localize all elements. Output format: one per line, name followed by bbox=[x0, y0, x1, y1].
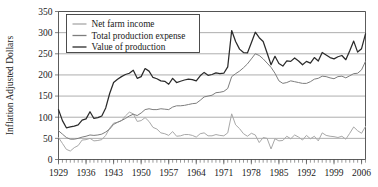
line-chart: 0501001502002503003501929193619431950195… bbox=[0, 0, 378, 187]
x-tick-label: 1964 bbox=[187, 168, 206, 178]
y-tick-label: 350 bbox=[38, 7, 53, 17]
y-tick-label: 250 bbox=[38, 49, 53, 59]
y-tick-label: 100 bbox=[38, 113, 53, 123]
x-tick-label: 1950 bbox=[132, 168, 151, 178]
legend-label-net-farm-income: Net farm income bbox=[92, 19, 155, 29]
legend-label-value-of-production: Value of production bbox=[92, 42, 166, 52]
legend-label-total-production-expense: Total production expense bbox=[92, 31, 186, 41]
y-tick-label: 300 bbox=[38, 28, 53, 38]
y-tick-label: 150 bbox=[38, 91, 53, 101]
x-tick-label: 1999 bbox=[325, 168, 344, 178]
chart-figure: 0501001502002503003501929193619431950195… bbox=[0, 0, 378, 187]
x-tick-label: 1971 bbox=[214, 168, 233, 178]
y-tick-label: 200 bbox=[38, 70, 53, 80]
x-tick-label: 1957 bbox=[159, 168, 178, 178]
y-tick-label: 50 bbox=[43, 134, 53, 144]
x-tick-label: 1978 bbox=[242, 168, 261, 178]
x-tick-label: 1936 bbox=[77, 168, 96, 178]
x-tick-label: 1985 bbox=[269, 168, 288, 178]
series-line-total-production-expense bbox=[59, 54, 366, 139]
y-axis-title: Inflation Adjusted Dollars bbox=[5, 36, 15, 136]
series-line-net-farm-income bbox=[59, 112, 366, 151]
x-tick-label: 1992 bbox=[297, 168, 316, 178]
x-tick-label: 1943 bbox=[104, 168, 123, 178]
x-tick-label: 2006 bbox=[352, 168, 371, 178]
y-tick-label: 0 bbox=[48, 155, 53, 165]
x-tick-label: 1929 bbox=[49, 168, 68, 178]
